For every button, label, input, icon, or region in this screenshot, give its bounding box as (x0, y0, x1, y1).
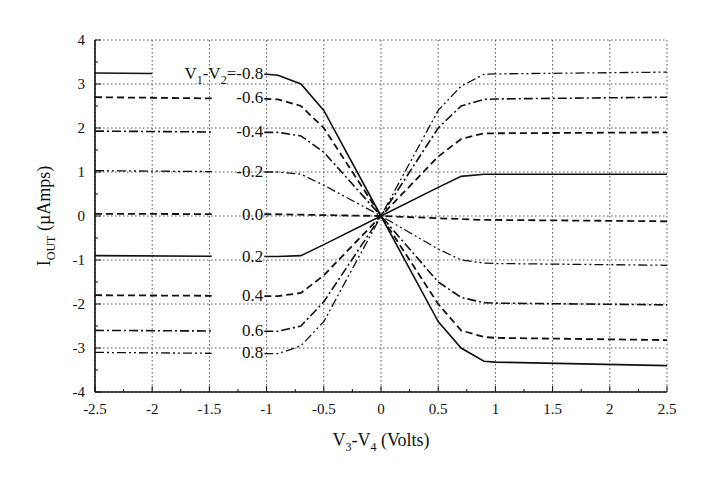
curve--0.4 (95, 131, 212, 132)
curve-label--0.2: -0.2 (236, 162, 263, 181)
curve--0.2 (95, 171, 212, 172)
y-tick-label: -4 (73, 384, 86, 400)
y-tick-label: 3 (78, 76, 86, 92)
y-tick-label: 2 (78, 120, 86, 136)
curve-0.8 (264, 72, 667, 354)
x-axis-title: V3-V4 (Volts) (332, 430, 429, 454)
curve-label--0.6: -0.6 (236, 88, 263, 107)
curve-0.0 (264, 214, 667, 221)
y-tick-label: -3 (73, 340, 86, 356)
curve-0.8 (95, 352, 212, 353)
x-tick-label: -0.5 (312, 401, 336, 417)
y-tick-label: 4 (78, 32, 86, 48)
x-tick-label: 2.5 (658, 401, 677, 417)
curve-0.6 (95, 330, 212, 331)
curve--0.6 (95, 97, 212, 98)
y-tick-label: 0 (78, 208, 86, 224)
curve-label-0.8: 0.8 (242, 343, 263, 362)
x-tick-label: -2.5 (83, 401, 107, 417)
y-tick-labels: 43210-1-2-3-4 (73, 32, 86, 400)
y-tick-label: -1 (73, 252, 86, 268)
x-tick-label: 1 (492, 401, 500, 417)
iv-characteristic-chart: V1-V2=-0.8-0.6-0.4-0.20.00.20.40.60.8 -2… (0, 0, 717, 481)
y-tick-label: -2 (73, 296, 86, 312)
curve-label-0.4: 0.4 (242, 286, 264, 305)
x-tick-label: 1.5 (543, 401, 562, 417)
x-tick-label: 0 (377, 401, 385, 417)
y-axis-title: IOUT (µAmps) (34, 166, 58, 267)
x-tick-label: -1 (260, 401, 273, 417)
x-tick-labels: -2.5-2-1.5-1-0.500.511.522.5 (83, 401, 676, 417)
curve-label-0.0: 0.0 (242, 205, 263, 224)
x-tick-label: 0.5 (429, 401, 448, 417)
x-tick-label: -1.5 (198, 401, 222, 417)
curve-label--0.4: -0.4 (236, 122, 263, 141)
curve-label-0.2: 0.2 (242, 247, 263, 266)
x-tick-label: 2 (606, 401, 614, 417)
x-tick-label: -2 (146, 401, 159, 417)
curve-label-0.6: 0.6 (242, 321, 263, 340)
curve-0.4 (95, 295, 212, 296)
curve-0.2 (95, 256, 212, 257)
y-tick-label: 1 (78, 164, 86, 180)
